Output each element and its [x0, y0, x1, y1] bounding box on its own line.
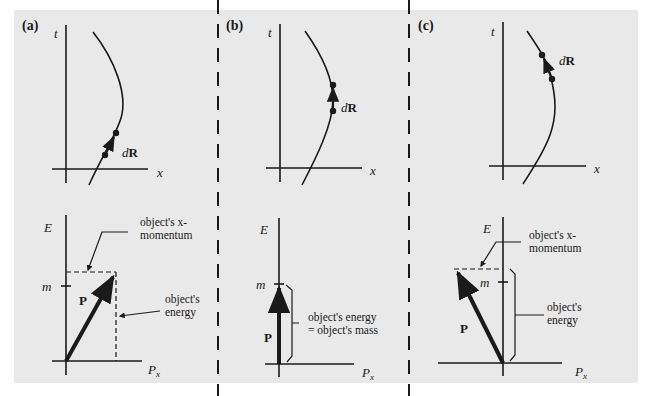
m-label: m	[480, 275, 489, 290]
panel-label: (b)	[226, 18, 243, 34]
m-label: m	[42, 279, 51, 294]
x-axis-label: x	[369, 163, 376, 178]
t-axis-label: t	[54, 26, 58, 41]
event-dot	[539, 52, 545, 58]
momentum-callout: object's x- momentum	[140, 216, 192, 241]
m-label: m	[256, 277, 265, 292]
panel-label: (c)	[418, 18, 434, 34]
E-axis-label: E	[259, 222, 268, 237]
figure: (a) t x dR E Px m P objec	[0, 0, 646, 396]
energy-mass-callout: object's energy = object's mass	[308, 311, 379, 337]
P-label: P	[460, 321, 468, 336]
event-dot	[330, 82, 336, 88]
event-dot	[113, 130, 119, 136]
t-axis-label: t	[268, 25, 272, 40]
P-label: P	[264, 330, 272, 345]
dR-label: dR	[341, 100, 358, 115]
E-axis-label: E	[43, 220, 52, 235]
x-axis-label: x	[593, 161, 600, 176]
E-axis-label: E	[482, 221, 491, 236]
P-label: P	[79, 293, 87, 308]
momentum-callout: object's x- momentum	[529, 229, 581, 254]
x-axis-label: x	[156, 165, 163, 180]
dR-label: dR	[122, 145, 139, 160]
t-axis-label: t	[491, 24, 495, 39]
panel-label: (a)	[22, 18, 39, 34]
dR-label: dR	[559, 53, 576, 68]
